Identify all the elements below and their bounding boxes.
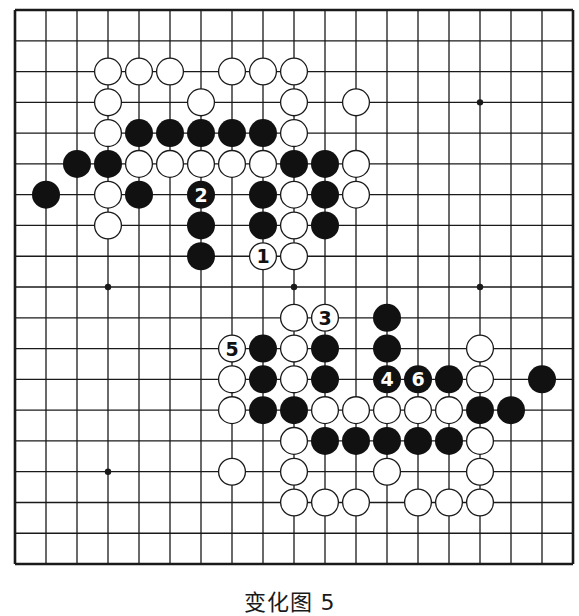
black-stone <box>218 119 246 147</box>
black-stone <box>311 335 339 363</box>
black-stone <box>249 365 277 393</box>
black-stone <box>311 427 339 455</box>
white-stone <box>219 366 246 393</box>
white-stone <box>219 151 246 178</box>
white-stone-move-1: 1 <box>250 243 277 270</box>
move-number: 6 <box>411 368 424 390</box>
white-stone <box>467 428 494 455</box>
white-stone <box>281 58 308 85</box>
white-stone <box>281 489 308 516</box>
black-stone <box>528 365 556 393</box>
white-stone <box>95 89 122 116</box>
black-stone <box>32 181 60 209</box>
white-stone-move-3: 3 <box>312 304 339 331</box>
white-stone <box>126 151 153 178</box>
white-stone <box>219 397 246 424</box>
black-stone <box>373 304 401 332</box>
black-stone <box>280 150 308 178</box>
white-stone <box>219 58 246 85</box>
white-stone <box>281 458 308 485</box>
white-stone <box>343 181 370 208</box>
black-stone <box>249 211 277 239</box>
move-number: 2 <box>194 184 207 206</box>
move-number: 3 <box>318 307 331 329</box>
white-stone <box>343 89 370 116</box>
star-point <box>291 284 297 290</box>
white-stone <box>467 489 494 516</box>
black-stone <box>373 335 401 363</box>
black-stone <box>94 150 122 178</box>
black-stone <box>404 427 432 455</box>
white-stone <box>281 304 308 331</box>
black-stone <box>435 427 463 455</box>
star-point <box>105 284 111 290</box>
black-stone <box>311 150 339 178</box>
white-stone <box>281 212 308 239</box>
white-stone <box>467 366 494 393</box>
black-stone <box>466 396 494 424</box>
black-stone <box>63 150 91 178</box>
white-stone <box>467 458 494 485</box>
black-stone <box>125 119 153 147</box>
white-stone <box>312 489 339 516</box>
black-stone-move-2: 2 <box>187 181 215 209</box>
white-stone <box>157 151 184 178</box>
white-stone <box>219 458 246 485</box>
white-stone <box>281 181 308 208</box>
black-stone-move-4: 4 <box>373 365 401 393</box>
white-stone <box>281 335 308 362</box>
white-stone <box>374 397 401 424</box>
star-point <box>105 469 111 475</box>
black-stone <box>187 211 215 239</box>
go-board: 213546 <box>0 0 579 580</box>
white-stone <box>281 89 308 116</box>
white-stone <box>374 458 401 485</box>
white-stone <box>405 397 432 424</box>
white-stone <box>436 397 463 424</box>
white-stone <box>467 335 494 362</box>
black-stone <box>249 181 277 209</box>
black-stone <box>373 427 401 455</box>
white-stone <box>312 397 339 424</box>
white-stone <box>126 58 153 85</box>
white-stone <box>95 212 122 239</box>
white-stone <box>95 181 122 208</box>
black-stone <box>249 335 277 363</box>
black-stone <box>342 427 370 455</box>
white-stone <box>157 58 184 85</box>
black-stone <box>125 181 153 209</box>
white-stone <box>281 120 308 147</box>
black-stone <box>249 119 277 147</box>
white-stone <box>436 489 463 516</box>
black-stone <box>311 211 339 239</box>
black-stone <box>280 396 308 424</box>
diagram-caption: 变化图 5 <box>0 584 579 616</box>
white-stone <box>281 243 308 270</box>
star-point <box>477 99 483 105</box>
white-stone <box>250 151 277 178</box>
move-number: 4 <box>380 368 393 390</box>
move-number: 1 <box>256 245 269 267</box>
white-stone <box>95 120 122 147</box>
white-stone <box>188 151 215 178</box>
white-stone <box>343 151 370 178</box>
black-stone <box>435 365 463 393</box>
black-stone <box>249 396 277 424</box>
black-stone <box>187 242 215 270</box>
white-stone <box>405 489 432 516</box>
white-stone-move-5: 5 <box>219 335 246 362</box>
white-stone <box>95 58 122 85</box>
black-stone <box>156 119 184 147</box>
black-stone <box>311 181 339 209</box>
black-stone <box>497 396 525 424</box>
star-point <box>477 284 483 290</box>
white-stone <box>281 366 308 393</box>
black-stone <box>311 365 339 393</box>
black-stone <box>187 119 215 147</box>
white-stone <box>188 89 215 116</box>
white-stone <box>281 428 308 455</box>
move-number: 5 <box>225 338 238 360</box>
black-stone-move-6: 6 <box>404 365 432 393</box>
white-stone <box>343 397 370 424</box>
white-stone <box>250 58 277 85</box>
